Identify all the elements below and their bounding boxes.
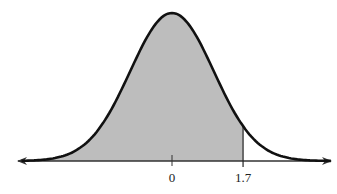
tick-label-mean: 0 bbox=[169, 170, 176, 186]
shaded-area bbox=[22, 13, 244, 161]
normal-curve-chart bbox=[0, 0, 337, 194]
tick-label-z: 1.7 bbox=[235, 170, 251, 186]
